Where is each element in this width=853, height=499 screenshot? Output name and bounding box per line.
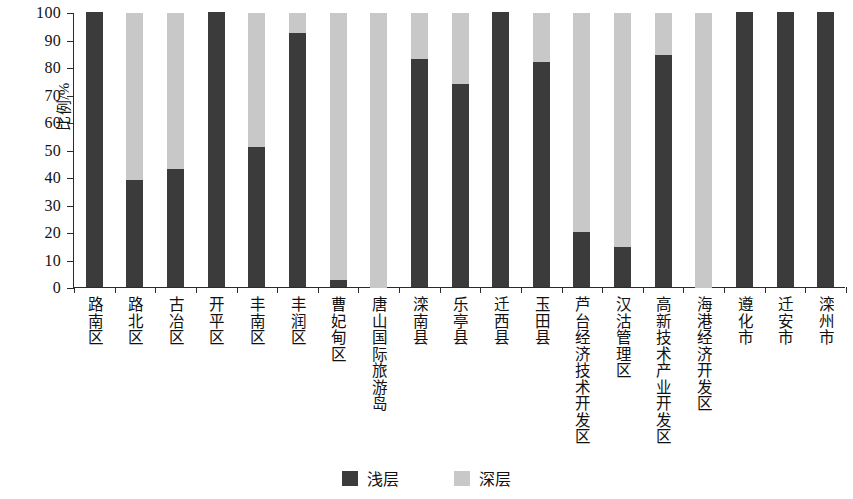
bar-group (492, 13, 509, 287)
bar-segment-deep (573, 13, 590, 233)
bar-segment-shallow (817, 12, 834, 287)
bar-segment-deep (126, 13, 143, 181)
y-axis-tick (67, 206, 74, 207)
bar-segment-deep (330, 13, 347, 281)
x-axis-label: 迁西县 (491, 296, 508, 346)
y-axis-tick (67, 68, 74, 69)
legend-item[interactable]: 浅层 (342, 466, 400, 490)
y-axis-tick-label: 0 (53, 279, 61, 297)
bar-segment-shallow (492, 12, 509, 287)
x-axis-label: 海港经济开发区 (695, 296, 712, 412)
y-axis-tick-label: 30 (44, 197, 61, 215)
x-axis-label: 古冶区 (166, 296, 183, 346)
bar-segment-shallow (86, 12, 103, 287)
bar-group (126, 13, 143, 287)
y-axis-tick-label: 20 (44, 224, 61, 242)
bar-segment-shallow (330, 280, 347, 287)
bar-segment-deep (614, 13, 631, 248)
x-axis-tick (277, 287, 278, 293)
y-axis-tick (67, 41, 74, 42)
bar-group (655, 13, 672, 287)
legend-item[interactable]: 深层 (454, 466, 512, 490)
y-axis-tick-label: 50 (44, 142, 61, 160)
bar-group (330, 13, 347, 287)
bar-group (86, 13, 103, 287)
x-axis-label: 玉田县 (532, 296, 549, 346)
x-axis-label: 丰润区 (288, 296, 305, 346)
bar-segment-deep (452, 13, 469, 85)
x-axis-tick (115, 287, 116, 293)
x-axis-label: 唐山国际旅游岛 (369, 296, 386, 412)
bar-segment-deep (695, 13, 712, 288)
bar-group (167, 13, 184, 287)
bar-group (736, 13, 753, 287)
y-axis-tick (67, 13, 74, 14)
x-axis-label: 路北区 (126, 296, 143, 346)
x-axis-tick (602, 287, 603, 293)
bar-segment-shallow (614, 247, 631, 287)
x-axis-tick (74, 287, 75, 293)
y-axis-tick (67, 233, 74, 234)
bar-segment-shallow (248, 147, 265, 287)
x-axis-label: 丰南区 (248, 296, 265, 346)
bar-segment-shallow (573, 232, 590, 287)
bar-segment-shallow (126, 180, 143, 287)
bar-segment-deep (248, 13, 265, 148)
y-axis-tick (67, 96, 74, 97)
bar-segment-deep (370, 13, 387, 288)
x-axis-label: 高新技术产业开发区 (654, 296, 671, 445)
x-axis-label: 汉沽管理区 (613, 296, 630, 379)
bar-group (695, 13, 712, 287)
bar-segment-shallow (411, 59, 428, 287)
y-axis-tick (67, 288, 74, 289)
x-axis-label: 乐亭县 (451, 296, 468, 346)
bar-group (533, 13, 550, 287)
bar-segment-deep (167, 13, 184, 170)
y-axis-tick (67, 123, 74, 124)
x-axis-tick (440, 287, 441, 293)
x-axis-tick (237, 287, 238, 293)
bar-group (573, 13, 590, 287)
y-axis-tick-label: 80 (44, 59, 61, 77)
x-axis-tick (521, 287, 522, 293)
plot-area (73, 13, 845, 288)
bar-segment-deep (655, 13, 672, 56)
stacked-bar-chart: 比例/% 0102030405060708090100 路南区路北区古冶区开平区… (0, 0, 853, 499)
x-axis-tick (358, 287, 359, 293)
legend-label: 深层 (479, 466, 512, 490)
bar-group (614, 13, 631, 287)
bar-group (370, 13, 387, 287)
legend-swatch-deep (454, 471, 470, 486)
y-axis-tick-label: 60 (44, 114, 61, 132)
x-axis-tick (724, 287, 725, 293)
x-axis-tick (643, 287, 644, 293)
bar-segment-shallow (777, 12, 794, 287)
bar-segment-shallow (452, 84, 469, 288)
bar-segment-shallow (533, 62, 550, 288)
x-axis-tick (765, 287, 766, 293)
bar-group (777, 13, 794, 287)
bar-group (452, 13, 469, 287)
bar-segment-shallow (655, 55, 672, 287)
bar-segment-shallow (736, 12, 753, 287)
x-axis-tick (155, 287, 156, 293)
x-axis-tick (318, 287, 319, 293)
x-axis-tick (399, 287, 400, 293)
bar-segment-shallow (289, 33, 306, 287)
x-axis-label: 曹妃甸区 (329, 296, 346, 362)
bar-segment-deep (289, 13, 306, 34)
x-axis-label: 路南区 (85, 296, 102, 346)
y-axis-tick-label: 70 (44, 87, 61, 105)
x-axis-label: 迁安市 (776, 296, 793, 346)
chart-legend: 浅层深层 (0, 466, 853, 490)
bar-group (411, 13, 428, 287)
y-axis-tick-label: 10 (44, 252, 61, 270)
y-axis-tick (67, 151, 74, 152)
y-axis-tick (67, 261, 74, 262)
bar-segment-deep (533, 13, 550, 63)
x-axis-tick (846, 287, 847, 293)
x-axis-label: 遵化市 (735, 296, 752, 346)
x-axis-tick (562, 287, 563, 293)
x-axis-label: 滦南县 (410, 296, 427, 346)
bars-layer (74, 13, 845, 287)
